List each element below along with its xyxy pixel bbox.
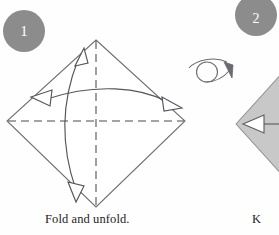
step-1-caption: Fold and unfold. [45,212,130,227]
step-2-caption: K [252,212,261,227]
step-number-1: 1 [3,10,45,52]
step-number-2-label: 2 [253,12,260,26]
origami-diagram-page: 1 2 Fold and unfold. K [0,0,279,235]
step-number-1-label: 1 [20,24,28,39]
